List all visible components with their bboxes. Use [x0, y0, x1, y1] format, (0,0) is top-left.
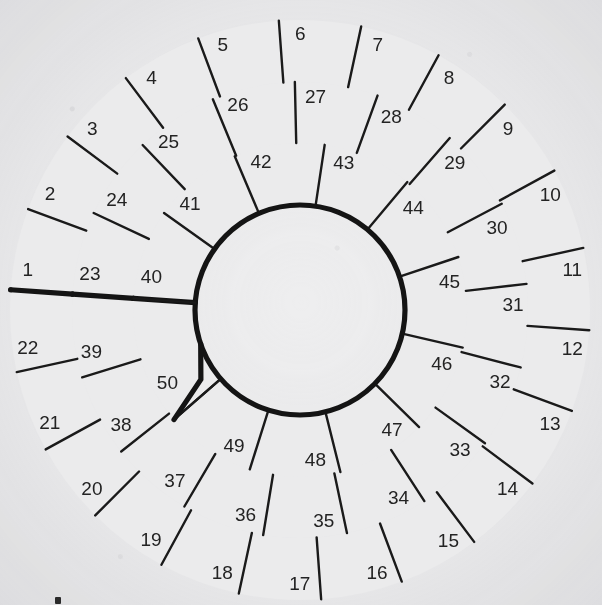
- cell-number-40: 40: [141, 266, 162, 287]
- cell-number-23: 23: [79, 263, 100, 284]
- cell-number-11: 11: [562, 259, 582, 280]
- spiral-cell-35[interactable]: [263, 473, 347, 538]
- spiral-puzzle-diagram: 1234567891011121314151617181920212223242…: [0, 0, 602, 605]
- cell-number-5: 5: [218, 34, 229, 55]
- cell-number-42: 42: [251, 151, 272, 172]
- cell-number-4: 4: [146, 67, 157, 88]
- cell-number-38: 38: [111, 414, 132, 435]
- cell-number-32: 32: [489, 371, 510, 392]
- cell-number-35: 35: [313, 510, 334, 531]
- cell-number-15: 15: [438, 530, 459, 551]
- cell-number-24: 24: [106, 189, 128, 210]
- spiral-hub-circle: [195, 205, 405, 415]
- cell-number-1: 1: [23, 259, 34, 280]
- cell-number-16: 16: [367, 562, 388, 583]
- cell-number-21: 21: [39, 412, 60, 433]
- cell-number-46: 46: [431, 353, 452, 374]
- cell-divider-27: [295, 82, 296, 143]
- cell-number-8: 8: [444, 67, 455, 88]
- cell-number-2: 2: [45, 183, 56, 204]
- cell-number-37: 37: [164, 470, 185, 491]
- cell-number-39: 39: [81, 341, 102, 362]
- spiral-cell-6[interactable]: [279, 20, 361, 87]
- cell-number-17: 17: [289, 573, 310, 594]
- cell-number-19: 19: [140, 529, 161, 550]
- stray-ink-mark: [55, 597, 61, 604]
- cell-number-6: 6: [295, 23, 306, 44]
- cell-number-20: 20: [81, 478, 102, 499]
- cell-number-13: 13: [539, 413, 560, 434]
- cell-number-12: 12: [562, 338, 583, 359]
- cell-number-41: 41: [180, 193, 201, 214]
- cell-number-45: 45: [439, 271, 460, 292]
- cell-number-22: 22: [17, 337, 38, 358]
- cell-number-31: 31: [502, 294, 523, 315]
- cell-number-18: 18: [212, 562, 233, 583]
- cell-number-36: 36: [235, 504, 256, 525]
- cell-number-30: 30: [487, 217, 508, 238]
- cell-number-10: 10: [540, 184, 561, 205]
- cell-number-14: 14: [497, 478, 519, 499]
- cell-number-33: 33: [450, 439, 471, 460]
- spiral-cell-22[interactable]: [10, 290, 77, 372]
- cell-number-7: 7: [373, 34, 384, 55]
- cell-number-28: 28: [381, 106, 402, 127]
- cell-number-47: 47: [382, 419, 403, 440]
- cell-number-44: 44: [403, 197, 425, 218]
- cell-number-50: 50: [157, 372, 178, 393]
- cell-number-48: 48: [305, 449, 326, 470]
- cell-number-34: 34: [388, 487, 410, 508]
- cell-number-27: 27: [305, 86, 326, 107]
- cell-number-49: 49: [224, 435, 245, 456]
- cell-number-25: 25: [158, 131, 179, 152]
- cell-number-3: 3: [87, 118, 98, 139]
- cell-number-43: 43: [333, 152, 354, 173]
- spiral-puzzle-page: 1234567891011121314151617181920212223242…: [0, 0, 602, 605]
- cell-number-26: 26: [227, 94, 248, 115]
- cell-number-9: 9: [503, 118, 514, 139]
- cell-number-29: 29: [444, 152, 465, 173]
